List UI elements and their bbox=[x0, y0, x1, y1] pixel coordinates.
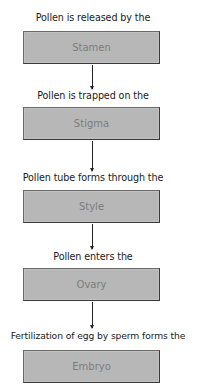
step-box-stigma: Stigma bbox=[23, 107, 160, 140]
step-box-stamen: Stamen bbox=[23, 31, 160, 64]
step-box-text: Style bbox=[79, 201, 104, 212]
step-box-text: Stigma bbox=[74, 118, 109, 129]
step-box-style: Style bbox=[23, 190, 160, 223]
step-box-text: Embryo bbox=[72, 361, 111, 372]
step-box-text: Stamen bbox=[72, 42, 111, 53]
arrow-down-icon bbox=[92, 224, 93, 249]
step-label-2: Pollen is trapped on the bbox=[0, 90, 186, 102]
step-label-4: Pollen enters the bbox=[0, 251, 186, 263]
step-label-1: Pollen is released by the bbox=[0, 12, 186, 24]
step-label-3: Pollen tube forms through the bbox=[0, 172, 186, 184]
step-box-embryo: Embryo bbox=[23, 350, 160, 383]
step-box-ovary: Ovary bbox=[23, 268, 160, 301]
step-box-text: Ovary bbox=[77, 279, 107, 290]
arrow-down-icon bbox=[92, 65, 93, 89]
step-label-5: Fertilization of egg by sperm forms the bbox=[0, 330, 198, 342]
arrow-down-icon bbox=[92, 141, 93, 171]
arrow-down-icon bbox=[92, 302, 93, 328]
